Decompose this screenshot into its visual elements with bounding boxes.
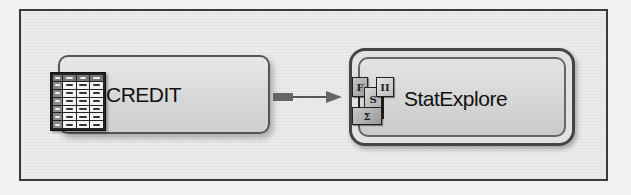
- output-port[interactable]: [273, 93, 293, 101]
- stat-explore-icon: F S II Σ: [352, 77, 404, 129]
- arrow-right-icon: [326, 91, 342, 103]
- statexplore-node-label: StatExplore: [404, 87, 507, 111]
- credit-node-label: CREDIT: [106, 83, 181, 107]
- ii-glyph-icon: II: [376, 77, 394, 97]
- connector-line: [293, 96, 329, 98]
- sigma-glyph-icon: Σ: [352, 107, 382, 125]
- data-table-icon: [50, 72, 106, 131]
